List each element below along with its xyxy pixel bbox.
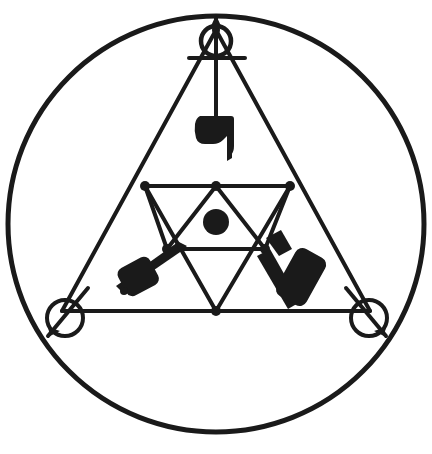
left-mallet-dot: [120, 287, 128, 295]
seal-diagram: [0, 0, 432, 454]
mid-left-node: [140, 181, 150, 191]
mid-top-node: [211, 181, 221, 191]
seal-canvas: Hermetic Seal Diagram esoteric-sigil-ill…: [0, 0, 432, 454]
center-point: [203, 209, 229, 235]
hebrew-nun-descender: [227, 134, 232, 161]
mid-right-node: [285, 181, 295, 191]
